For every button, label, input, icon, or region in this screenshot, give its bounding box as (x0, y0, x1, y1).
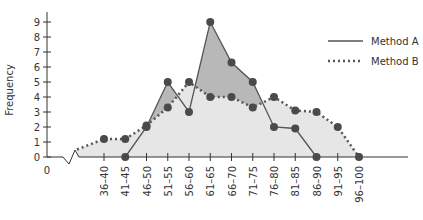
legend: Method AMethod B (328, 36, 419, 67)
method-a-marker (185, 108, 193, 116)
x-tick-label: 91–95 (333, 166, 344, 196)
method-b-marker (313, 108, 321, 116)
method-b-marker (164, 104, 172, 112)
method-a-marker (313, 153, 321, 161)
x-origin-label: 0 (44, 165, 50, 176)
x-tick-label: 96–100 (354, 166, 365, 203)
x-tick-label: 51–55 (163, 166, 174, 196)
y-tick-label: 0 (34, 152, 40, 163)
x-tick-label: 66–70 (227, 166, 238, 196)
method-a-marker (228, 59, 236, 67)
x-tick-label: 46–50 (142, 166, 153, 196)
method-a-marker (121, 153, 129, 161)
method-b-marker (206, 93, 214, 101)
y-axis-label: Frequency (4, 64, 15, 116)
method-b-marker (185, 78, 193, 86)
legend-label-method-b: Method B (371, 56, 419, 67)
x-tick-label: 36–40 (99, 166, 110, 196)
x-tick-label: 71–75 (248, 166, 259, 196)
method-a-marker (164, 78, 172, 86)
method-b-marker (100, 135, 108, 143)
method-a-marker (206, 18, 214, 26)
y-tick-label: 5 (34, 77, 40, 88)
y-tick-label: 1 (34, 137, 40, 148)
y-tick-label: 2 (34, 122, 40, 133)
y-tick-label: 8 (34, 32, 40, 43)
method-b-marker (334, 123, 342, 131)
y-tick-label: 4 (34, 92, 40, 103)
y-tick-label: 7 (34, 47, 40, 58)
legend-label-method-a: Method A (371, 36, 419, 47)
x-tick-label: 76–80 (269, 166, 280, 196)
method-b-marker (291, 107, 299, 115)
method-b-marker (228, 93, 236, 101)
x-tick-label: 81–85 (290, 166, 301, 196)
method-a-marker (270, 123, 278, 131)
y-tick-label: 9 (34, 17, 40, 28)
x-tick-label: 41–45 (120, 166, 131, 196)
fill-areas (77, 0, 359, 157)
method-b-marker (143, 122, 151, 130)
method-b-marker (270, 93, 278, 101)
method-a-marker (291, 125, 299, 133)
method-b-marker (355, 153, 363, 161)
y-tick-label: 6 (34, 62, 40, 73)
chart-canvas: 0123456789Frequency036–4041–4546–5051–55… (0, 0, 423, 220)
method-a-marker (249, 78, 257, 86)
x-tick-label: 61–65 (205, 166, 216, 196)
x-tick-label: 56–60 (184, 166, 195, 196)
method-b-marker (121, 135, 129, 143)
y-tick-label: 3 (34, 107, 40, 118)
frequency-polygon-chart: 0123456789Frequency036–4041–4546–5051–55… (0, 0, 423, 220)
method-b-marker (249, 104, 257, 112)
x-tick-label: 86–90 (312, 166, 323, 196)
